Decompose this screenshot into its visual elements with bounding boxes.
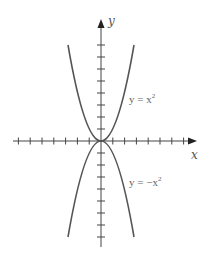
label-y-equals-x-squared: y = x2 <box>129 92 156 105</box>
label-y-equals-negative-x-squared: y = −x2 <box>129 175 162 188</box>
x-axis-arrow-icon <box>188 138 197 145</box>
y-axis-label: y <box>107 14 115 28</box>
parabola-chart: y x y = x2 y = −x2 <box>0 0 214 255</box>
y-axis-arrow-icon <box>98 19 105 28</box>
x-axis-label: x <box>191 148 198 162</box>
